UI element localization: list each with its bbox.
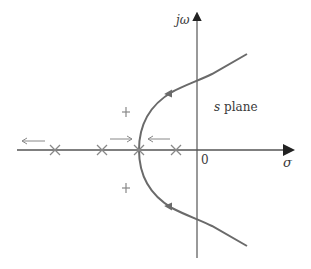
origin-label: 0 (201, 153, 209, 167)
s-variable: s (214, 100, 220, 114)
root-locus-diagram (0, 0, 311, 269)
real-axis-label: σ (283, 155, 292, 170)
plane-text: plane (224, 100, 258, 114)
real-axis-direction-arrows (22, 136, 170, 144)
s-plane-label: s plane (214, 100, 258, 114)
locus-lower-branch (139, 150, 247, 246)
imaginary-axis-label: jω (176, 13, 190, 27)
